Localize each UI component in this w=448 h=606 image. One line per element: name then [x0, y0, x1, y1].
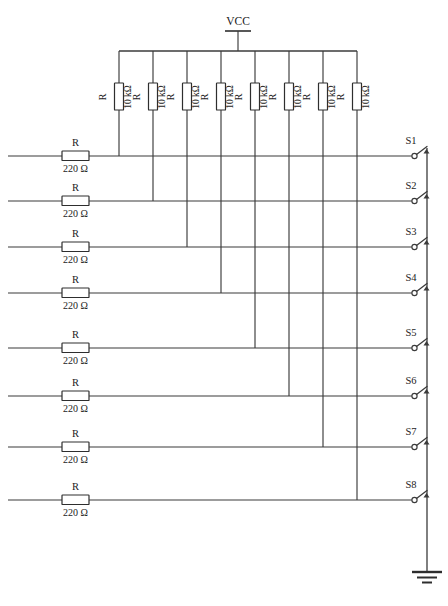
switch-label-s3: S3	[405, 226, 416, 237]
signal-row-4: R 220 Ω	[8, 274, 413, 311]
pullup-branch-5: R 10 kΩ	[233, 51, 269, 348]
series-ref-7: R	[72, 428, 79, 439]
switch-s4[interactable]: S4	[405, 272, 429, 296]
pullup-branch-3: R 10 kΩ	[165, 51, 201, 247]
switch-label-s1: S1	[405, 135, 416, 146]
vcc-label: VCC	[226, 15, 250, 27]
series-ref-1: R	[72, 137, 79, 148]
series-ref-5: R	[72, 329, 79, 340]
series-value-8: 220 Ω	[63, 507, 88, 518]
series-ref-3: R	[72, 228, 79, 239]
signal-row-5: R 220 Ω	[8, 329, 413, 366]
series-value-3: 220 Ω	[63, 254, 88, 265]
switch-s8[interactable]: S8	[405, 479, 429, 503]
series-ref-6: R	[72, 377, 79, 388]
pullup-branch-2: R 10 kΩ	[131, 51, 167, 201]
pullup-ref-5: R	[233, 93, 244, 100]
pullup-branch-8: R 10 kΩ	[335, 51, 371, 500]
signal-row-8: R 220 Ω	[8, 481, 413, 518]
series-value-6: 220 Ω	[63, 403, 88, 414]
switch-label-s6: S6	[405, 375, 416, 386]
pullup-branch-4: R 10 kΩ	[199, 51, 235, 293]
ground-icon	[412, 572, 442, 583]
series-ref-8: R	[72, 481, 79, 492]
vcc-symbol	[225, 31, 251, 51]
switch-s2[interactable]: S2	[405, 180, 429, 204]
signal-row-3: R 220 Ω	[8, 228, 413, 265]
signal-row-6: R 220 Ω	[8, 377, 413, 414]
pullup-value-8: 10 kΩ	[361, 85, 371, 109]
pullup-ref-1: R	[97, 93, 108, 100]
switch-s1[interactable]: S1	[405, 135, 429, 159]
series-ref-2: R	[72, 182, 79, 193]
switch-label-s7: S7	[405, 426, 416, 437]
pullup-branch-7: R 10 kΩ	[301, 51, 337, 447]
switch-label-s2: S2	[405, 180, 416, 191]
series-ref-4: R	[72, 274, 79, 285]
pullup-ref-6: R	[267, 93, 278, 100]
pullup-branch-6: R 10 kΩ	[267, 51, 303, 396]
signal-row-2: R 220 Ω	[8, 182, 413, 219]
series-value-4: 220 Ω	[63, 300, 88, 311]
schematic-canvas: VCC R 10 kΩ R 10 kΩ R 10 kΩ	[0, 0, 448, 606]
series-value-5: 220 Ω	[63, 355, 88, 366]
series-value-1: 220 Ω	[63, 163, 88, 174]
switch-s3[interactable]: S3	[405, 226, 429, 250]
circuit-schematic: VCC R 10 kΩ R 10 kΩ R 10 kΩ	[0, 0, 448, 606]
pullup-ref-4: R	[199, 93, 210, 100]
pullup-ref-3: R	[165, 93, 176, 100]
signal-row-1: R 220 Ω	[8, 137, 413, 174]
switch-s6[interactable]: S6	[405, 375, 429, 399]
pullup-ref-7: R	[301, 93, 312, 100]
series-value-2: 220 Ω	[63, 208, 88, 219]
signal-row-7: R 220 Ω	[8, 428, 413, 465]
switch-s5[interactable]: S5	[405, 327, 429, 351]
series-value-7: 220 Ω	[63, 454, 88, 465]
switch-label-s4: S4	[405, 272, 417, 283]
switch-label-s8: S8	[405, 479, 416, 490]
switch-s7[interactable]: S7	[405, 426, 429, 450]
pullup-branch-1: R 10 kΩ	[97, 51, 133, 156]
pullup-ref-2: R	[131, 93, 142, 100]
pullup-ref-8: R	[335, 93, 346, 100]
switch-label-s5: S5	[405, 327, 416, 338]
